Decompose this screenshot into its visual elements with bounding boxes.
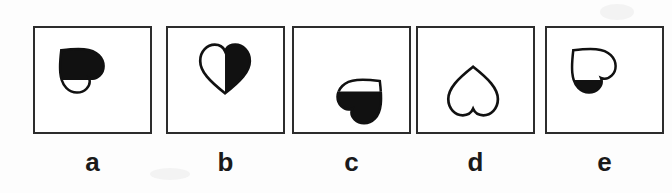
- heart-icon-e: [547, 28, 662, 132]
- option-label-e: e: [545, 146, 664, 178]
- heart-icon-a: [35, 28, 150, 132]
- scan-speckle: [600, 4, 634, 20]
- option-label-a: a: [33, 146, 152, 178]
- answer-options-figure: a b c d e: [0, 0, 672, 193]
- option-label-d: d: [416, 146, 535, 178]
- option-box-e[interactable]: [545, 26, 664, 134]
- option-label-c: c: [292, 146, 411, 178]
- heart-icon-c: [294, 28, 409, 132]
- option-box-b[interactable]: [166, 26, 285, 134]
- heart-icon-d: [418, 28, 533, 132]
- option-box-c[interactable]: [292, 26, 411, 134]
- option-box-a[interactable]: [33, 26, 152, 134]
- option-label-b: b: [166, 146, 285, 178]
- heart-icon-b: [168, 28, 283, 132]
- option-box-d[interactable]: [416, 26, 535, 134]
